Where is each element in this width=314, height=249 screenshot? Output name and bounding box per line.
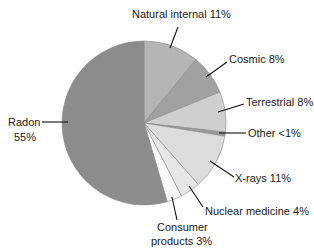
label-natural-internal: Natural internal 11% [132, 8, 231, 21]
label-other: Other <1% [248, 127, 301, 140]
pie-slices [62, 41, 226, 205]
label-nuclear-medicine: Nuclear medicine 4% [205, 205, 309, 218]
label-radon-line2: 55% [14, 131, 36, 144]
label-terrestrial: Terrestrial 8% [246, 96, 313, 109]
leader-natural-internal [170, 27, 178, 48]
leader-xrays [210, 161, 234, 177]
leader-nuclear-medicine [189, 186, 203, 207]
label-xrays: X-rays 11% [235, 172, 291, 185]
leader-consumer-products [172, 197, 177, 220]
label-radon-line1: Radon [8, 116, 40, 129]
label-consumer-products-line2: products 3% [151, 235, 212, 248]
label-consumer-products-line1: Consumer [157, 221, 208, 234]
leader-cosmic [206, 62, 227, 77]
label-cosmic: Cosmic 8% [229, 53, 285, 66]
